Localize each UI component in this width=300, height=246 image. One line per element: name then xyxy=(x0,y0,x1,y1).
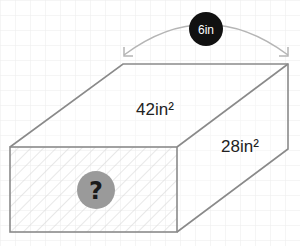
unknown-area-marker: ? xyxy=(77,171,115,209)
depth-label: 6in xyxy=(198,23,214,37)
top-face-label: 42in² xyxy=(136,100,174,119)
prism-diagram: 6in 42in² 28in² ? xyxy=(0,0,300,246)
question-mark-icon: ? xyxy=(89,177,103,205)
right-face-label: 28in² xyxy=(221,137,259,156)
diagram-canvas: 6in 42in² 28in² ? xyxy=(0,0,300,246)
depth-badge: 6in xyxy=(189,12,223,46)
